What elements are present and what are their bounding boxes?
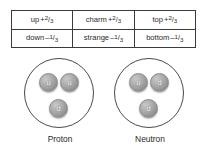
quark-charge-table: up+2/3 charm+2/3 top+2/3 down–1/3 strang…: [11, 10, 196, 48]
quark-charge-fraction-up: 2/3: [45, 16, 54, 23]
table-row: up+2/3 charm+2/3 top+2/3: [12, 11, 196, 30]
quark-name-up: up: [31, 15, 39, 24]
quark-name-strange: strange: [84, 33, 109, 42]
neutron-quark-down-right: d: [150, 73, 169, 92]
fraction-denominator: 3: [120, 36, 123, 43]
fraction-denominator: 3: [118, 17, 121, 24]
fraction-denominator: 3: [174, 17, 177, 24]
quark-charge-fraction-bottom: 1/3: [175, 34, 184, 41]
table-cell-charm: charm+2/3: [73, 11, 134, 30]
quark-name-bottom: bottom: [146, 33, 169, 42]
fraction-denominator: 3: [55, 36, 58, 43]
neutron-label: Neutron: [114, 134, 186, 144]
proton-quark-up-left: u: [39, 73, 58, 92]
proton-quark-up-right: u: [60, 73, 79, 92]
neutron-quark-down: d: [139, 99, 158, 118]
table-cell-top: top+2/3: [134, 11, 195, 30]
quark-name-top: top: [152, 15, 163, 24]
quark-charge-fraction-charm: 2/3: [112, 16, 121, 23]
quark-charge-fraction-strange: 1/3: [114, 34, 123, 41]
table-cell-up: up+2/3: [12, 11, 73, 30]
quark-name-charm: charm: [86, 15, 107, 24]
table-cell-strange: strange–1/3: [73, 29, 134, 48]
quark-charge-fraction-top: 2/3: [168, 16, 177, 23]
table-cell-bottom: bottom–1/3: [134, 29, 195, 48]
proton-quark-down: d: [49, 99, 68, 118]
fraction-denominator: 3: [50, 17, 53, 24]
quark-name-down: down: [26, 33, 44, 42]
proton-diagram: u u d Proton: [24, 58, 96, 130]
quark-charge-fraction-down: 1/3: [49, 34, 58, 41]
fraction-denominator: 3: [180, 36, 183, 43]
table-row: down–1/3 strange–1/3 bottom–1/3: [12, 29, 196, 48]
neutron-diagram: u d d Neutron: [114, 58, 186, 130]
proton-label: Proton: [24, 134, 96, 144]
neutron-quark-up: u: [129, 73, 148, 92]
table-cell-down: down–1/3: [12, 29, 73, 48]
